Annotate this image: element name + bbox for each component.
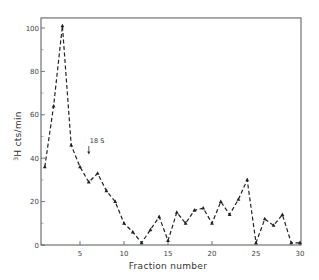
y-tick-label: 100 [26, 25, 39, 33]
triangle-marker [175, 210, 179, 214]
x-axis-ticks: 51015202530 [78, 241, 305, 258]
y-tick-label: 60 [30, 111, 39, 119]
triangle-marker [61, 24, 65, 28]
arrow-down-icon [87, 152, 90, 155]
annotations: 18 S [87, 137, 104, 155]
y-axis-ticks: 020406080100 [26, 25, 45, 250]
triangle-marker [69, 143, 73, 147]
x-tick-label: 30 [296, 250, 305, 258]
x-tick-label: 10 [120, 250, 129, 258]
y-axis-title: 3H cts/min [12, 111, 23, 161]
triangle-marker [78, 165, 82, 169]
triangle-marker [245, 178, 249, 182]
triangle-marker [166, 238, 170, 242]
triangle-marker [131, 230, 135, 234]
x-tick-label: 25 [252, 250, 261, 258]
triangle-marker [201, 206, 205, 210]
y-tick-label: 0 [35, 242, 39, 250]
x-axis-title: Fraction number [129, 261, 207, 271]
triangle-marker [210, 221, 214, 225]
sedimentation-chart: 020406080100 51015202530 18 S Fraction n… [0, 0, 319, 280]
triangle-marker [254, 241, 258, 245]
y-tick-label: 80 [30, 68, 39, 76]
x-tick-label: 5 [78, 250, 82, 258]
triangle-marker [157, 215, 161, 219]
data-series [43, 24, 302, 245]
x-tick-label: 15 [164, 250, 173, 258]
triangle-marker [281, 212, 285, 216]
triangle-marker [140, 241, 144, 245]
annotation-label: 18 S [90, 137, 104, 145]
series-line [45, 26, 300, 243]
triangle-marker [43, 165, 47, 169]
triangle-marker [219, 199, 223, 203]
x-tick-label: 20 [208, 250, 217, 258]
y-tick-label: 40 [30, 155, 39, 163]
triangle-marker [263, 217, 267, 221]
triangle-marker [96, 171, 100, 175]
y-tick-label: 20 [30, 198, 39, 206]
triangle-marker [52, 104, 56, 108]
plot-border [41, 18, 301, 245]
y-axis-title-text: H cts/min [13, 111, 23, 157]
triangle-marker [122, 221, 126, 225]
plot-frame [41, 18, 301, 245]
